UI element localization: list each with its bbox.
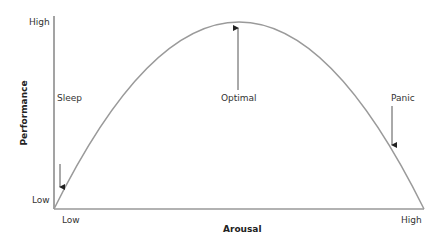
yerkes-dodson-diagram [0, 0, 439, 243]
performance-curve [54, 22, 424, 209]
sleep-annotation: Sleep [57, 93, 82, 103]
x-high-label: High [401, 215, 422, 225]
x-axis-title: Arousal [223, 224, 262, 234]
y-high-label: High [29, 17, 50, 27]
y-low-label: Low [32, 195, 50, 205]
y-axis-title: Performance [19, 81, 29, 146]
x-low-label: Low [62, 215, 80, 225]
panic-annotation: Panic [391, 93, 415, 103]
optimal-annotation: Optimal [221, 93, 257, 103]
